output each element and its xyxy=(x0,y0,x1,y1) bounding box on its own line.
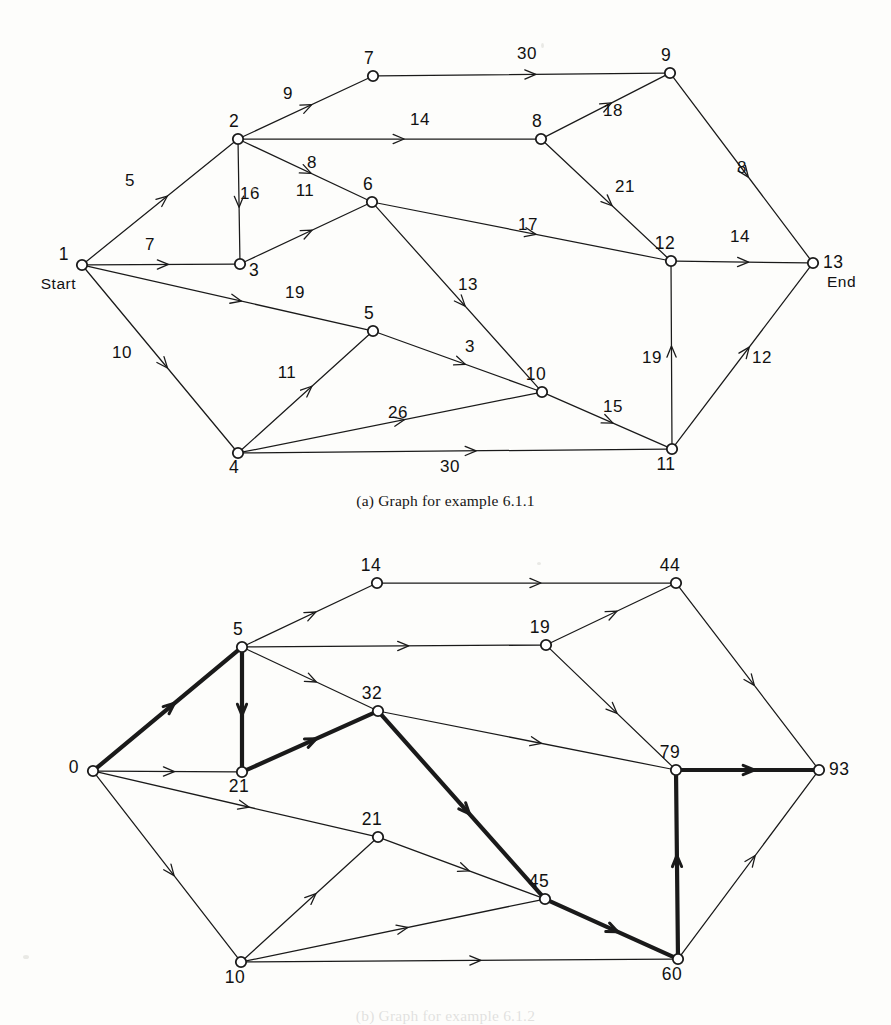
graph-edge xyxy=(245,841,374,959)
graph-node-60 xyxy=(673,954,683,964)
figure-a-caption: (a) Graph for example 6.1.1 xyxy=(0,492,891,510)
node-label: 10 xyxy=(225,967,245,987)
graph-node-5 xyxy=(368,326,378,336)
node-label: 19 xyxy=(530,617,550,637)
figure-a-canvas: 5719109148161111263031713301821815191214… xyxy=(0,0,891,525)
edge-weight-label: 16 xyxy=(240,184,260,203)
graph-node-3 xyxy=(235,259,245,269)
node-label: 5 xyxy=(364,303,374,323)
node-label: 6 xyxy=(363,174,373,194)
edge-weight-label: 10 xyxy=(112,343,132,362)
graph-edge xyxy=(378,73,665,76)
graph-edge xyxy=(85,269,234,449)
graph-edge xyxy=(86,142,234,261)
graph-node-32 xyxy=(373,706,383,716)
graph-node-44 xyxy=(671,578,681,588)
graph-edge xyxy=(87,266,368,330)
graph-edge xyxy=(671,266,672,444)
edge-weight-label: 14 xyxy=(410,110,430,129)
scan-speck xyxy=(23,955,29,959)
node-label: 60 xyxy=(662,964,682,984)
graph-edge xyxy=(676,775,678,954)
edge-weight-label: 21 xyxy=(615,177,635,196)
edge-weight-label: 9 xyxy=(283,84,293,103)
node-label: 12 xyxy=(655,233,675,253)
graph-node-14 xyxy=(372,578,382,588)
node-label: 1 xyxy=(59,244,69,264)
graph-node-8 xyxy=(536,134,546,144)
edge-weight-label: 7 xyxy=(145,235,155,254)
graph-edge xyxy=(246,900,540,961)
edge-weight-label: 17 xyxy=(518,215,538,234)
graph-edge xyxy=(97,650,238,767)
graph-edge xyxy=(243,449,667,453)
graph-edge xyxy=(383,712,671,769)
graph-edge xyxy=(98,771,237,772)
figure-b-canvas: 052114322119454479601093 xyxy=(0,525,891,1025)
node-label: 3 xyxy=(249,260,259,280)
node-label: 5 xyxy=(233,619,243,639)
graph-edge xyxy=(96,775,238,958)
graph-node-45 xyxy=(540,894,550,904)
graph-edge xyxy=(243,393,537,452)
graph-edge xyxy=(242,334,369,449)
graph-edge xyxy=(679,587,816,766)
node-label: 9 xyxy=(661,45,671,65)
graph-edge xyxy=(246,959,673,962)
edge-weight-label: 8 xyxy=(307,153,317,172)
node-label: 93 xyxy=(829,759,849,779)
edge-weight-label: 30 xyxy=(517,44,537,63)
edge-weight-label: 30 xyxy=(440,457,460,476)
node-label: 13 xyxy=(823,252,843,272)
node-label: 10 xyxy=(526,364,546,384)
scan-speck xyxy=(537,562,541,565)
graph-node-11 xyxy=(667,444,677,454)
edge-weight-label: 26 xyxy=(388,403,408,422)
node-label: 45 xyxy=(529,871,549,891)
edge-weight-label: 11 xyxy=(278,363,297,382)
node-label: 32 xyxy=(362,683,382,703)
graph-node-79 xyxy=(671,765,681,775)
node-label: 21 xyxy=(362,809,382,829)
figure-b-caption: (b) Graph for example 6.1.2 xyxy=(0,1007,891,1025)
graph-edge xyxy=(245,204,368,262)
node-label: 7 xyxy=(364,48,374,68)
graph-edge xyxy=(247,649,374,709)
graph-edge xyxy=(551,585,672,643)
graph-node-6 xyxy=(367,197,377,207)
graph-node-2 xyxy=(233,134,243,144)
edge-weight-label: 12 xyxy=(752,348,772,367)
edge-weight-label: 11 xyxy=(296,181,315,200)
scan-speck xyxy=(252,188,255,191)
graph-node-9 xyxy=(665,68,675,78)
node-label: 2 xyxy=(229,111,239,131)
node-label: 8 xyxy=(532,111,542,131)
node-label: 14 xyxy=(361,555,381,575)
graph-edge xyxy=(378,333,537,390)
node-label: 79 xyxy=(660,742,680,762)
scan-speck xyxy=(541,43,544,48)
edge-weight-label: 14 xyxy=(730,227,750,246)
edge-weight-label: 18 xyxy=(603,101,623,120)
edge-weight-label: 3 xyxy=(465,337,475,356)
graph-edge xyxy=(676,261,808,263)
graph-edge xyxy=(550,901,674,957)
edge-weight-label: 15 xyxy=(603,397,623,416)
graph-node-1 xyxy=(77,260,87,270)
figure-b-graph-example-612: 052114322119454479601093 xyxy=(0,525,891,1025)
edge-weight-label: 5 xyxy=(125,171,135,190)
node-label: 11 xyxy=(656,454,675,474)
terminal-label-end: End xyxy=(827,273,856,290)
edge-weight-label: 13 xyxy=(458,275,478,294)
graph-node-21 xyxy=(373,832,383,842)
edge-weight-label: 19 xyxy=(285,283,305,302)
graph-node-5 xyxy=(237,642,247,652)
graph-edge xyxy=(675,267,810,445)
edge-weight-label: 8 xyxy=(737,158,747,177)
graph-node-0 xyxy=(88,766,98,776)
node-label: 21 xyxy=(229,776,249,796)
figure-a-graph-example-611: 5719109148161111263031713301821815191214… xyxy=(0,0,891,525)
graph-node-93 xyxy=(814,765,824,775)
graph-node-7 xyxy=(368,71,378,81)
graph-edge xyxy=(243,78,369,137)
